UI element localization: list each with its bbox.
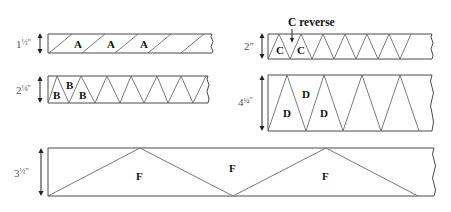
wavy-edge-icon — [207, 76, 209, 103]
cut-lines-d — [268, 75, 419, 131]
wavy-edge-icon — [431, 75, 434, 131]
piece-label: F — [136, 170, 143, 182]
piece-label: D — [320, 107, 328, 119]
piece-label: A — [140, 38, 148, 50]
strip-b: 2⅛" B B B — [16, 76, 209, 103]
strip-f: 3½" F F F — [14, 148, 436, 196]
wavy-edge-icon — [433, 148, 436, 196]
strip-d: 4¼" D D D — [238, 75, 434, 131]
dimension-label-c: 2" — [244, 40, 254, 52]
dimension-label-d: 4¼" — [238, 96, 253, 108]
cut-lines-a — [49, 34, 204, 53]
strip-c: C reverse 2" C C — [244, 16, 433, 59]
piece-label: F — [229, 162, 236, 174]
piece-label: A — [107, 38, 115, 50]
piece-label: A — [74, 38, 82, 50]
wavy-edge-icon — [431, 34, 433, 59]
dimension-arrow-d — [260, 75, 265, 131]
cut-lines-c — [268, 34, 411, 59]
strip-cutting-diagram: 1½" A A A 2⅛" B B B C reverse — [0, 0, 451, 212]
piece-label: C — [276, 44, 284, 56]
piece-label: B — [79, 89, 87, 101]
dimension-arrow-a — [38, 33, 43, 54]
piece-label: C — [297, 44, 305, 56]
piece-label: D — [283, 107, 291, 119]
dimension-arrow-f — [39, 148, 44, 196]
piece-label: B — [66, 79, 74, 91]
piece-label: D — [302, 88, 310, 100]
dimension-arrow-c — [260, 33, 265, 59]
c-reverse-callout: C reverse — [288, 16, 335, 28]
wavy-edge-icon — [211, 34, 213, 53]
dimension-label-b: 2⅛" — [16, 84, 31, 96]
piece-label: F — [322, 170, 329, 182]
dimension-label-f: 3½" — [14, 167, 29, 179]
dimension-arrow-b — [38, 76, 43, 103]
dimension-label-a: 1½" — [16, 38, 31, 50]
callout-arrow-icon — [290, 29, 294, 43]
piece-label: B — [53, 89, 61, 101]
strip-a: 1½" A A A — [16, 33, 213, 54]
